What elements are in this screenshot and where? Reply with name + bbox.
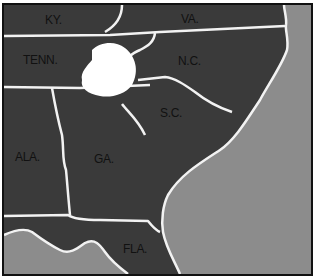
- state-label-fla: FLA.: [123, 242, 147, 256]
- state-label-tenn: TENN.: [23, 53, 58, 67]
- state-label-va: VA.: [181, 12, 199, 26]
- state-label-ky: KY.: [45, 13, 62, 27]
- state-label-ga: GA.: [94, 152, 114, 166]
- state-label-ala: ALA.: [15, 150, 40, 164]
- map-graphic: [0, 0, 315, 279]
- state-label-sc: S.C.: [160, 106, 182, 120]
- southeast-us-map: KY. VA. TENN. N.C. S.C. ALA. GA. FLA.: [0, 0, 315, 279]
- state-label-nc: N.C.: [178, 54, 201, 68]
